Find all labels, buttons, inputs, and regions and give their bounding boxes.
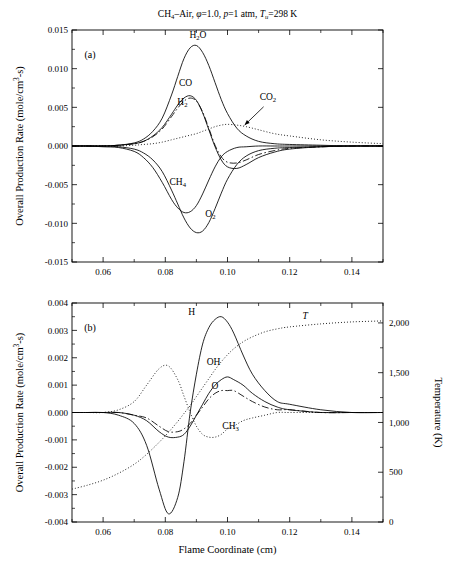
figure-panel: CH4–Air, φ=1.0, p=1 atm, Tu=298 K0.060.0… <box>0 0 449 570</box>
panel-label-b: (b) <box>84 322 96 334</box>
curve-label-T: T <box>303 311 309 321</box>
x-tick-label: 0.10 <box>220 267 236 277</box>
curve-label-H2O: H2O <box>189 30 206 41</box>
y2-tick-label: 500 <box>389 467 403 477</box>
panel-b-y2-axis-title: Temperature (K) <box>432 377 444 448</box>
panel-label-a: (a) <box>84 49 95 61</box>
chart-title: CH4–Air, φ=1.0, p=1 atm, Tu=298 K <box>158 9 297 20</box>
curve-label-CH3: CH3 <box>222 421 239 432</box>
x-tick-label: 0.14 <box>344 267 360 277</box>
y-tick-label: 0.004 <box>48 298 69 308</box>
panel-b-curves <box>72 317 383 514</box>
panel-a-curves <box>72 45 383 233</box>
curve-CO2 <box>72 124 383 146</box>
x-tick-label: 0.12 <box>282 527 298 537</box>
y-tick-label: 0.003 <box>48 326 69 336</box>
curve-label-CO2: CO2 <box>260 92 277 103</box>
curve-CO <box>72 96 383 169</box>
y-tick-label: -0.003 <box>45 490 69 500</box>
y-tick-label: 0.010 <box>48 64 69 74</box>
x-axis-title: Flame Coordinate (cm) <box>179 544 277 556</box>
y-tick-label: 0.005 <box>48 103 69 113</box>
curve-label-H2: H2 <box>177 97 187 108</box>
curve-H2 <box>72 98 383 163</box>
y-tick-label: -0.001 <box>45 435 68 445</box>
curve-T <box>72 321 383 489</box>
curve-label-CH4: CH4 <box>169 177 186 188</box>
y-tick-label: -0.004 <box>45 517 69 527</box>
curve-H2O <box>72 45 383 146</box>
combined-production-rate-chart: CH4–Air, φ=1.0, p=1 atm, Tu=298 K0.060.0… <box>0 0 449 570</box>
x-tick-label: 0.14 <box>344 527 360 537</box>
x-tick-label: 0.06 <box>95 527 111 537</box>
curve-label-OH: OH <box>207 357 221 367</box>
y-tick-label: 0.002 <box>48 353 68 363</box>
panel-b-y-axis-title: Overall Production Rate (mole/cm3-s) <box>12 332 27 492</box>
y2-tick-label: 2,000 <box>389 318 410 328</box>
curve-label-O: O <box>212 381 219 391</box>
y-tick-label: -0.005 <box>45 180 69 190</box>
y-tick-label: 0.001 <box>48 380 68 390</box>
x-tick-label: 0.08 <box>157 267 173 277</box>
x-tick-label: 0.08 <box>157 527 173 537</box>
y2-tick-label: 1,000 <box>389 418 410 428</box>
curve-label-CO: CO <box>179 78 192 88</box>
x-tick-label: 0.10 <box>220 527 236 537</box>
y-tick-label: -0.015 <box>45 257 69 267</box>
y-tick-label: 0.000 <box>48 141 69 151</box>
curve-O2 <box>72 146 383 233</box>
x-tick-label: 0.06 <box>95 267 111 277</box>
panel-a-y-axis-title: Overall Production Rate (mole/cm3-s) <box>12 66 27 226</box>
y-tick-label: 0.015 <box>48 25 69 35</box>
y-tick-label: 0.000 <box>48 408 69 418</box>
y2-tick-label: 0 <box>389 517 394 527</box>
curve-label-H: H <box>188 307 195 317</box>
y2-tick-label: 1,500 <box>389 368 410 378</box>
y-tick-label: -0.010 <box>45 219 69 229</box>
x-tick-label: 0.12 <box>282 267 298 277</box>
y-tick-label: -0.002 <box>45 462 68 472</box>
curve-H <box>72 317 383 514</box>
